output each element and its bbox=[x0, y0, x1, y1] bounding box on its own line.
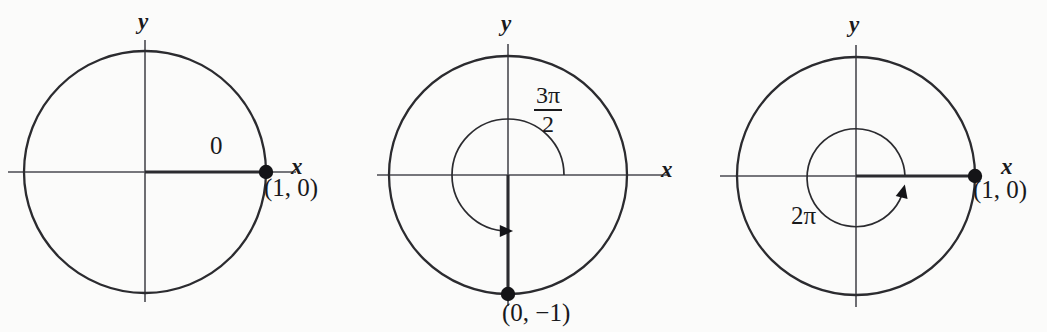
y-axis-label: y bbox=[138, 10, 148, 33]
y-axis-label: y bbox=[849, 13, 859, 36]
panel-two-pi-graphic bbox=[698, 0, 1047, 332]
diagram-panel-two-pi: y x 2π (1, 0) bbox=[698, 0, 1047, 332]
x-axis-label: x bbox=[661, 158, 673, 181]
x-axis-label: x bbox=[1001, 155, 1013, 178]
diagram-panel-three-pi-over-two: y x 3π 2 (0, −1) bbox=[349, 0, 698, 332]
angle-fraction-denominator: 2 bbox=[534, 112, 562, 137]
diagram-panel-zero: y x 0 (1, 0) bbox=[0, 0, 349, 332]
angle-label: 2π bbox=[791, 203, 816, 228]
angle-label-fraction: 3π 2 bbox=[534, 83, 562, 137]
terminal-point-label: (1, 0) bbox=[973, 177, 1027, 202]
angle-label: 0 bbox=[210, 133, 223, 158]
terminal-point-label: (0, −1) bbox=[502, 300, 570, 325]
panel-three-pi-over-two-graphic bbox=[349, 0, 698, 332]
terminal-point-label: (1, 0) bbox=[264, 175, 318, 200]
angle-fraction-numerator: 3π bbox=[534, 83, 562, 108]
y-axis-label: y bbox=[501, 12, 511, 35]
figure-canvas: y x 0 (1, 0) y x 3π bbox=[0, 0, 1047, 332]
